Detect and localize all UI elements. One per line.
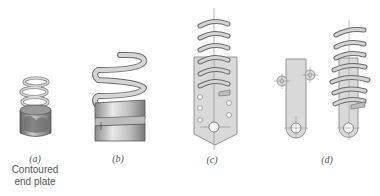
panel-b-label: (b): [103, 153, 133, 165]
panel-a-caption-line1: Contoured: [6, 164, 64, 176]
panel-c-label: (c): [197, 154, 227, 166]
panel-d-label: (d): [312, 154, 342, 166]
panel-b-drawing: [95, 55, 145, 141]
panel-d-spring-drawing: [332, 20, 368, 140]
panel-a-drawing: [20, 78, 51, 137]
panel-c-drawing: [194, 8, 237, 150]
panel-d-lever-drawing: [274, 59, 318, 138]
panel-a-caption-line2: end plate: [6, 176, 64, 188]
